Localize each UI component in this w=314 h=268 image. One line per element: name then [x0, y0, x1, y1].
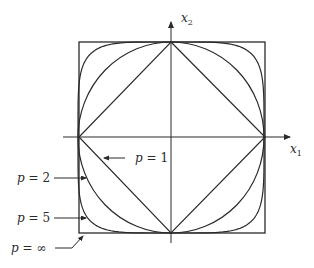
x1-axis-label: x1 — [290, 142, 302, 158]
pointer-p-infinity — [55, 236, 83, 248]
label-p-5: p = 5 — [17, 211, 50, 225]
label-p-infinity: p = ∞ — [11, 241, 46, 255]
label-p-2: p = 2 — [17, 171, 50, 185]
label-p-1: p = 1 — [135, 151, 168, 165]
x2-axis-label: x2 — [181, 11, 193, 27]
p-norm-unit-balls-diagram: x2 x1 p = 1 p = 2 p = 5 p = ∞ — [0, 0, 314, 268]
